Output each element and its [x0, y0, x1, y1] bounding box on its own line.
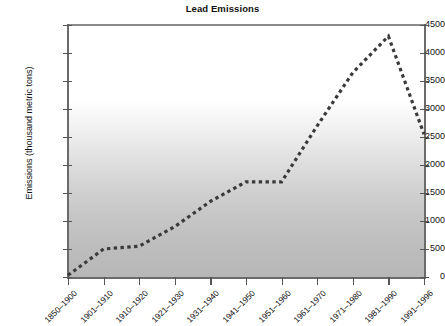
- axis-right-line: [424, 24, 426, 278]
- y-tick-mark: [63, 53, 72, 54]
- x-tick-label: 1991–1996: [398, 288, 435, 325]
- y-tick-mark: [63, 221, 72, 222]
- x-tick-mark: [388, 277, 389, 285]
- x-tick-label: 1951–1960: [256, 288, 293, 325]
- y-tick-label: 3500: [383, 75, 445, 85]
- x-tick-mark: [210, 277, 211, 285]
- y-tick-mark-right: [420, 137, 429, 138]
- y-tick-mark: [63, 249, 72, 250]
- x-tick-label: 1961–1970: [292, 288, 329, 325]
- x-tick-label: 1931–1940: [185, 288, 222, 325]
- x-tick-mark: [139, 277, 140, 285]
- x-tick-mark: [353, 277, 354, 285]
- y-tick-mark: [63, 81, 72, 82]
- y-tick-label: 3000: [383, 103, 445, 113]
- x-tick-mark: [424, 277, 425, 285]
- y-tick-label: 500: [383, 243, 445, 253]
- x-tick-mark: [317, 277, 318, 285]
- y-tick-mark-right: [420, 53, 429, 54]
- x-tick-mark: [104, 277, 105, 285]
- y-tick-label: 2000: [383, 159, 445, 169]
- y-tick-label: 0: [383, 271, 445, 281]
- y-tick-mark: [63, 193, 72, 194]
- x-tick-label: 1901–1910: [78, 288, 115, 325]
- y-tick-mark-right: [420, 25, 429, 26]
- chart-title: Lead Emissions: [0, 3, 445, 14]
- x-tick-label: 1981–1990: [363, 288, 400, 325]
- y-tick-mark: [63, 165, 72, 166]
- y-tick-mark: [63, 137, 72, 138]
- y-tick-mark-right: [420, 221, 429, 222]
- x-tick-label: 1921–1930: [149, 288, 186, 325]
- y-tick-label: 4000: [383, 47, 445, 57]
- y-tick-mark: [63, 25, 72, 26]
- y-tick-mark-right: [420, 249, 429, 250]
- y-tick-mark: [63, 109, 72, 110]
- axis-left-line: [67, 24, 69, 278]
- y-tick-label: 1000: [383, 215, 445, 225]
- x-tick-mark: [246, 277, 247, 285]
- y-axis-label: Emissions (thousand metric tons): [24, 8, 34, 258]
- y-tick-mark-right: [420, 109, 429, 110]
- x-tick-label: 1941–1950: [220, 288, 257, 325]
- y-tick-label: 1500: [383, 187, 445, 197]
- y-tick-label: 4500: [383, 19, 445, 29]
- lead-emissions-chart: Lead Emissions Emissions (thousand metri…: [0, 0, 445, 326]
- y-tick-mark-right: [420, 165, 429, 166]
- y-tick-mark-right: [420, 193, 429, 194]
- axis-top-line: [67, 24, 426, 26]
- x-tick-label: 1850–1900: [42, 288, 79, 325]
- x-tick-label: 1910–1920: [114, 288, 151, 325]
- y-tick-label: 2500: [383, 131, 445, 141]
- x-tick-mark: [68, 277, 69, 285]
- x-tick-mark: [282, 277, 283, 285]
- plot-area: [68, 25, 425, 277]
- x-tick-label: 1971–1980: [327, 288, 364, 325]
- y-tick-mark-right: [420, 81, 429, 82]
- x-tick-mark: [175, 277, 176, 285]
